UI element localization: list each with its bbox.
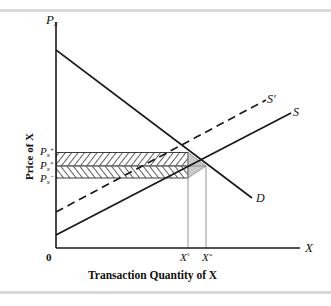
y-axis-title-text: Price of X: [23, 133, 35, 180]
quantity-equilibrium-label: X*: [202, 252, 212, 263]
price-eq-base: P: [40, 159, 47, 171]
quantity-taxed-label: X°: [180, 252, 189, 263]
price-buyer-base: P: [40, 145, 47, 157]
supply-label: S: [293, 106, 299, 118]
y-axis-tip-sub: x: [54, 19, 58, 28]
qty-eq-base: X: [202, 251, 209, 263]
y-axis-tip-label: Px: [46, 13, 58, 28]
y-axis-title: Price of X: [24, 133, 35, 180]
x-axis-title: Transaction Quantity of X: [88, 270, 217, 282]
origin-label: 0: [46, 252, 52, 263]
qty-taxed-base: X: [180, 251, 187, 263]
price-seller-label: Px−: [40, 173, 54, 186]
price-seller-base: P: [40, 172, 47, 184]
price-buyer-sup: +: [50, 146, 55, 153]
axes: [56, 22, 300, 248]
qty-taxed-sup: °: [187, 252, 190, 259]
origin-text: 0: [46, 251, 52, 263]
figure-container: Px Price of X Px+ Px* Px− S' S D X 0 X° …: [0, 0, 331, 306]
curves: [56, 50, 291, 235]
x-axis-tip-label: X: [305, 241, 313, 254]
price-equilibrium-label: Px*: [40, 160, 53, 173]
price-seller-sup: −: [50, 173, 55, 180]
price-eq-sup: *: [50, 160, 53, 167]
x-axis-title-text: Transaction Quantity of X: [88, 269, 217, 281]
tax-burden-regions: [56, 153, 206, 179]
demand-label: D: [256, 192, 265, 204]
x-axis-tip-text: X: [305, 240, 313, 255]
region-buyer-tax-burden: [56, 153, 188, 167]
price-buyer-label: Px+: [40, 146, 54, 159]
y-axis-tip-base: P: [46, 12, 54, 27]
supply-shifted-text: S': [267, 92, 276, 106]
demand-text: D: [256, 191, 265, 205]
supply-text: S: [293, 105, 299, 119]
qty-eq-sup: *: [209, 252, 212, 259]
supply-shifted-label: S': [267, 93, 276, 105]
